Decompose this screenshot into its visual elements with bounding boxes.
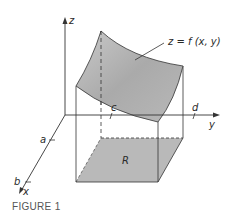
surface-over-region-diagram: z y x a b c d z = f (x, y) R FIGURE 1 xyxy=(0,0,233,216)
figure-caption: FIGURE 1 xyxy=(12,201,61,212)
z-axis-arrow-icon xyxy=(63,17,68,24)
region-r xyxy=(76,138,183,182)
tick-c xyxy=(110,113,112,119)
tick-label-c: c xyxy=(111,102,117,113)
tick-label-a: a xyxy=(40,134,46,145)
tick-d xyxy=(193,113,195,119)
y-axis-label: y xyxy=(208,119,216,130)
surface-label-leader xyxy=(135,43,164,60)
tick-label-d: d xyxy=(192,102,199,113)
x-axis-label: x xyxy=(22,186,29,197)
tick-label-b: b xyxy=(14,176,20,187)
region-label: R xyxy=(122,155,129,166)
x-axis xyxy=(21,115,65,191)
y-axis-arrow-icon xyxy=(213,113,220,118)
surface-patch xyxy=(76,31,183,122)
surface-label: z = f (x, y) xyxy=(167,36,221,47)
z-axis-label: z xyxy=(68,15,75,26)
